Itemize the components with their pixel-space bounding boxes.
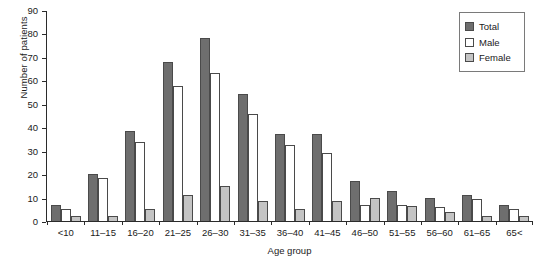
y-tick-label: 80	[16, 28, 38, 39]
y-tick	[42, 152, 46, 153]
bar-male	[285, 145, 295, 221]
x-tick-label: 16–20	[127, 227, 153, 238]
bar-total	[425, 198, 435, 221]
bar-total	[163, 62, 173, 221]
bar-female	[258, 201, 268, 221]
y-tick-label: 0	[16, 216, 38, 227]
bar-male	[173, 86, 183, 221]
bar-male	[61, 209, 71, 221]
y-tick	[42, 222, 46, 223]
y-tick-label: 20	[16, 169, 38, 180]
legend-swatch-total-icon	[465, 22, 474, 31]
y-tick-label: 50	[16, 99, 38, 110]
bar-male	[435, 207, 445, 221]
bar-group: 56–60	[421, 11, 458, 221]
bar-female	[183, 195, 193, 221]
x-tick	[346, 221, 347, 225]
x-tick	[271, 221, 272, 225]
bar-chart: Number of patients 0102030405060708090 <…	[0, 0, 545, 268]
x-tick-label: 26–30	[202, 227, 228, 238]
x-tick	[47, 221, 48, 225]
bar-female	[445, 212, 455, 221]
bar-total	[462, 195, 472, 221]
x-tick	[309, 221, 310, 225]
bar-male	[210, 73, 220, 221]
bar-total	[238, 94, 248, 221]
bar-female	[332, 201, 342, 221]
bar-female	[108, 216, 118, 221]
bar-female	[295, 209, 305, 221]
bar-male	[397, 205, 407, 221]
legend: Total Male Female	[459, 12, 525, 72]
bar-group: 36–40	[271, 11, 308, 221]
bar-total	[350, 181, 360, 221]
bar-male	[135, 142, 145, 221]
y-tick	[42, 81, 46, 82]
bar-female	[519, 216, 529, 221]
legend-swatch-male-icon	[465, 38, 474, 47]
x-tick-label: 31–35	[239, 227, 265, 238]
bar-female	[370, 198, 380, 221]
x-tick-label: 56–60	[426, 227, 452, 238]
bar-female	[482, 216, 492, 221]
y-tick-label: 30	[16, 146, 38, 157]
bar-group: 11–15	[84, 11, 121, 221]
bar-total	[312, 134, 322, 221]
x-tick	[84, 221, 85, 225]
bar-group: 51–55	[384, 11, 421, 221]
bar-male	[98, 178, 108, 221]
x-tick-label: 65<	[506, 227, 522, 238]
x-axis-title: Age group	[46, 245, 533, 256]
bar-total	[51, 205, 61, 221]
legend-item-total: Total	[465, 22, 519, 32]
bar-male	[472, 199, 482, 221]
y-tick	[42, 199, 46, 200]
y-tick	[42, 34, 46, 35]
bar-male	[248, 114, 258, 221]
bar-female	[145, 209, 155, 221]
bar-total	[499, 205, 509, 221]
x-axis-line	[46, 221, 533, 222]
bar-total	[200, 38, 210, 221]
bar-total	[387, 191, 397, 221]
bar-female	[407, 206, 417, 221]
bar-group: 31–35	[234, 11, 271, 221]
x-tick-label: 61–65	[464, 227, 490, 238]
bar-group: 41–45	[309, 11, 346, 221]
x-tick	[458, 221, 459, 225]
x-tick-label: <10	[58, 227, 74, 238]
y-axis-title: Number of patients	[18, 0, 29, 143]
bar-group: <10	[47, 11, 84, 221]
x-tick	[197, 221, 198, 225]
x-tick-label: 11–15	[90, 227, 116, 238]
legend-item-female: Female	[465, 53, 519, 63]
bar-male	[322, 153, 332, 221]
legend-label-male: Male	[479, 38, 500, 48]
bar-total	[88, 174, 98, 221]
legend-label-female: Female	[479, 53, 511, 63]
bar-female	[71, 216, 81, 221]
y-tick	[42, 11, 46, 12]
x-tick	[122, 221, 123, 225]
x-tick	[532, 221, 533, 225]
y-tick-label: 60	[16, 75, 38, 86]
x-tick	[384, 221, 385, 225]
y-tick	[42, 128, 46, 129]
y-tick	[42, 58, 46, 59]
bar-total	[125, 131, 135, 221]
bar-group: 16–20	[122, 11, 159, 221]
legend-item-male: Male	[465, 38, 519, 48]
legend-label-total: Total	[479, 22, 499, 32]
x-tick	[234, 221, 235, 225]
x-tick	[159, 221, 160, 225]
x-tick	[421, 221, 422, 225]
y-tick-label: 10	[16, 193, 38, 204]
y-tick-label: 70	[16, 52, 38, 63]
x-tick-label: 41–45	[314, 227, 340, 238]
bar-male	[360, 205, 370, 221]
bar-group: 21–25	[159, 11, 196, 221]
y-tick	[42, 105, 46, 106]
y-tick-label: 40	[16, 122, 38, 133]
bar-group: 46–50	[346, 11, 383, 221]
x-tick-label: 36–40	[277, 227, 303, 238]
